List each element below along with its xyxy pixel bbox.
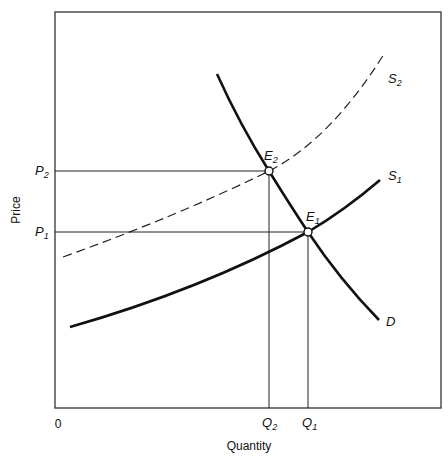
curve-label-d: D bbox=[386, 314, 395, 329]
origin-label: 0 bbox=[55, 417, 62, 431]
x-axis-label: Quantity bbox=[227, 439, 272, 453]
price-label-p2: P2 bbox=[35, 163, 49, 180]
supply-curve-s1 bbox=[70, 180, 380, 327]
equilibrium-label-e1: E1 bbox=[306, 209, 320, 226]
curve-label-s2: S2 bbox=[388, 71, 402, 88]
equilibrium-label-e2: E2 bbox=[264, 148, 278, 165]
equilibrium-point-e1 bbox=[304, 228, 312, 236]
equilibrium-point-e2 bbox=[265, 167, 273, 175]
plot-frame bbox=[55, 12, 441, 408]
quantity-label-q1: Q1 bbox=[302, 415, 317, 432]
price-label-p1: P1 bbox=[35, 224, 49, 241]
y-axis-label: Price bbox=[9, 196, 23, 224]
demand-curve-d bbox=[217, 74, 379, 320]
supply-curve-s2 bbox=[63, 54, 384, 257]
curve-label-s1: S1 bbox=[388, 168, 402, 185]
supply-demand-diagram: Price Quantity 0 P2 P1 Q2 Q1 S2 S1 D E2 … bbox=[0, 0, 448, 462]
quantity-label-q2: Q2 bbox=[262, 415, 277, 432]
